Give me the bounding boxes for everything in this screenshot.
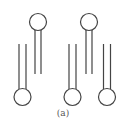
lipid-head bbox=[30, 14, 47, 31]
top-left-lipid bbox=[30, 14, 47, 75]
bottom-left-lipid bbox=[14, 44, 31, 106]
lipid-head bbox=[64, 89, 81, 106]
bottom-right-lipid bbox=[99, 44, 116, 106]
lipid-head bbox=[81, 14, 98, 31]
lipid-head bbox=[14, 89, 31, 106]
lipid-head bbox=[99, 89, 116, 106]
figure-caption: (a) bbox=[0, 108, 126, 118]
top-right-lipid bbox=[81, 14, 98, 75]
bottom-middle-lipid bbox=[64, 44, 81, 106]
